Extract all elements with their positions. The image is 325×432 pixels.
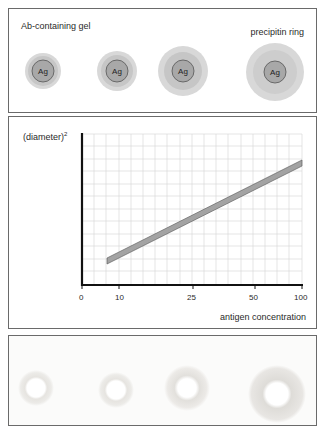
well-1: Ag: [25, 53, 61, 89]
photo-ring-4: [248, 365, 306, 423]
svg-text:Ag: Ag: [112, 67, 122, 76]
photo-ring-1: [18, 370, 54, 406]
x-tick-100: 100: [294, 293, 307, 302]
x-axis-label: antigen concentration: [220, 312, 306, 322]
x-tick-50: 50: [249, 293, 258, 302]
chart-panel: (diameter)2: [8, 116, 317, 329]
grid: [82, 134, 302, 285]
well-2: Ag: [97, 51, 137, 91]
x-tick-25: 25: [187, 293, 196, 302]
photo-ring-3: [164, 365, 210, 411]
svg-text:Ag: Ag: [270, 68, 280, 77]
diffusion-diagram-panel: Ab-containing gel precipitin ring Ag Ag …: [8, 8, 317, 113]
gel-photo: [9, 336, 318, 427]
data-line: [107, 160, 302, 264]
svg-text:Ag: Ag: [178, 67, 188, 76]
x-tick-10: 10: [115, 293, 124, 302]
wells-diagram: Ag Ag Ag Ag: [9, 9, 318, 114]
x-tick-0: 0: [79, 293, 83, 302]
gel-photo-panel: [8, 335, 317, 426]
well-4: Ag: [246, 43, 304, 101]
well-3: Ag: [158, 46, 208, 96]
svg-text:Ag: Ag: [38, 67, 48, 76]
photo-ring-2: [98, 372, 134, 408]
chart-plot: [9, 117, 318, 330]
